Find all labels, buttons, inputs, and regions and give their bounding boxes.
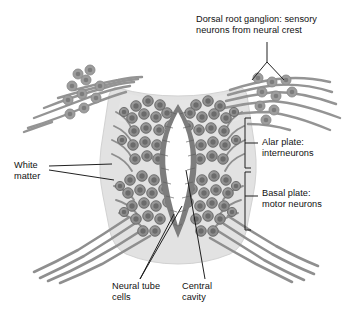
label-basal-plate: Basal plate: motor neurons: [262, 188, 322, 211]
left-sensory-ganglion-cluster: [63, 65, 105, 119]
label-central-cavity: Central cavity: [182, 281, 212, 304]
label-white-matter: White matter: [14, 160, 40, 183]
label-dorsal-root-ganglion: Dorsal root ganglion: sensory neurons fr…: [196, 14, 317, 37]
label-neural-tube-cells: Neural tube cells: [112, 281, 160, 304]
label-alar-plate: Alar plate: interneurons: [262, 137, 314, 160]
